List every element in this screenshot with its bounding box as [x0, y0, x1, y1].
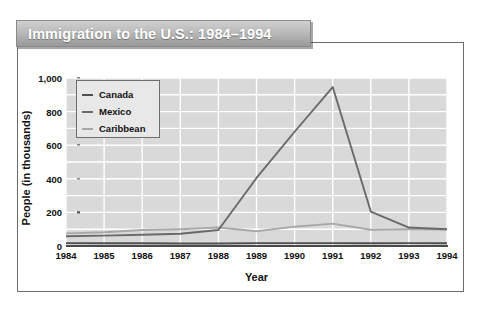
- legend-item-label: Mexico: [99, 106, 131, 117]
- y-tick-mark: [77, 245, 81, 246]
- y-tick-mark: [77, 178, 81, 179]
- legend-item-label: Canada: [99, 89, 133, 100]
- page-title: Immigration to the U.S.: 1984–1994: [17, 26, 272, 42]
- legend-item: Canada: [82, 86, 159, 103]
- x-tick-label: 1986: [132, 250, 153, 261]
- legend-line-swatch-icon: [82, 128, 93, 130]
- y-axis-label: People (in thousands): [20, 93, 32, 243]
- x-tick-label: 1993: [398, 250, 419, 261]
- legend-item: Caribbean: [82, 120, 159, 137]
- x-axis-ticks: 1984198519861987198819891990199119921993…: [66, 250, 447, 266]
- x-tick-label: 1990: [284, 250, 305, 261]
- x-tick-label: 1987: [170, 250, 191, 261]
- x-tick-label: 1991: [322, 250, 343, 261]
- x-axis-line: [66, 245, 448, 247]
- x-tick-label: 1984: [55, 250, 76, 261]
- x-axis-label: Year: [66, 271, 447, 283]
- legend-line-swatch-icon: [82, 94, 93, 96]
- x-tick-label: 1989: [246, 250, 267, 261]
- y-tick-mark: [77, 145, 81, 146]
- y-tick-mark: [77, 77, 81, 78]
- x-tick-label: 1992: [360, 250, 381, 261]
- chart-figure: Immigration to the U.S.: 1984–1994 02004…: [0, 0, 486, 314]
- x-tick-label: 1994: [436, 250, 457, 261]
- x-tick-label: 1985: [94, 250, 115, 261]
- legend-item-label: Caribbean: [99, 123, 145, 134]
- y-tick-mark: [77, 212, 81, 213]
- y-tick-label: 1,000: [16, 73, 62, 84]
- legend-item: Mexico: [82, 103, 159, 120]
- chart-legend: CanadaMexicoCaribbean: [76, 80, 160, 138]
- chart-title-banner: Immigration to the U.S.: 1984–1994: [16, 20, 311, 47]
- x-tick-label: 1988: [208, 250, 229, 261]
- legend-line-swatch-icon: [82, 111, 93, 113]
